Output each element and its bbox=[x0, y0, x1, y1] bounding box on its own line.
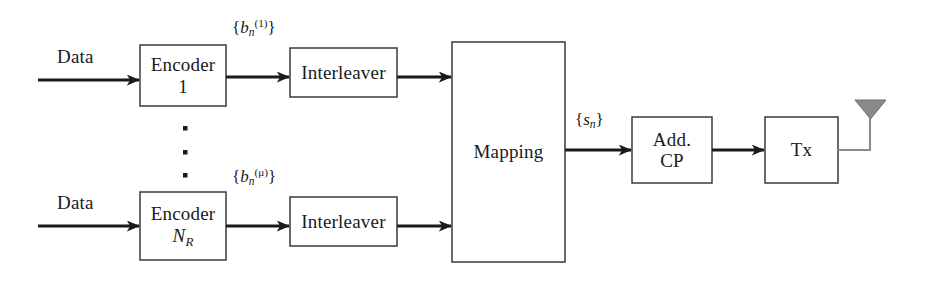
ellipsis-dot bbox=[183, 173, 188, 178]
ellipsis-dot bbox=[183, 126, 188, 131]
encoder-nr-box bbox=[140, 192, 226, 260]
block-diagram-canvas: Encoder 1 Interleaver Encoder NR Interle… bbox=[0, 0, 944, 286]
interleaver-1-box bbox=[290, 48, 397, 97]
data-label-top: Data bbox=[57, 46, 94, 68]
symbols-base: s bbox=[583, 110, 590, 129]
bits-bottom-base: b bbox=[240, 167, 249, 186]
bits-top-base: b bbox=[240, 18, 249, 37]
bits-bottom-label: {bn(μ)} bbox=[232, 166, 276, 188]
mapping-box bbox=[452, 42, 565, 262]
bits-top-sup: (1) bbox=[254, 17, 267, 29]
interleaver-nr-box bbox=[290, 197, 397, 246]
bits-bottom-sup: (μ) bbox=[254, 166, 268, 178]
add-cp-box bbox=[632, 117, 712, 183]
data-label-bottom: Data bbox=[57, 192, 94, 214]
bits-top-label: {bn(1)} bbox=[232, 17, 276, 39]
ellipsis-dot bbox=[183, 150, 188, 155]
antenna-feed-line bbox=[838, 112, 870, 150]
transmit-antenna-icon bbox=[855, 100, 886, 119]
tx-box bbox=[765, 117, 838, 183]
symbols-label: {sn} bbox=[575, 110, 604, 131]
encoder-1-box bbox=[140, 45, 226, 106]
diagram-vector-layer bbox=[0, 0, 944, 286]
